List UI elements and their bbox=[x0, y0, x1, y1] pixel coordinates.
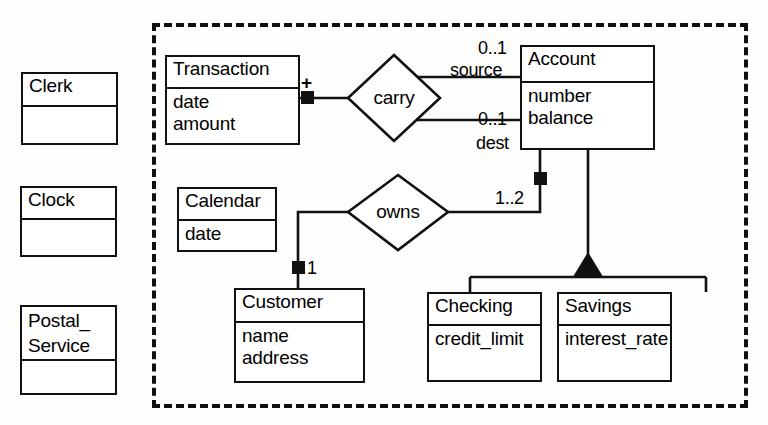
edge-label-source-role: source bbox=[450, 60, 502, 81]
class-attributes-clock bbox=[22, 220, 115, 224]
class-attributes-transaction: date amount bbox=[167, 89, 298, 137]
relationship-label-owns: owns bbox=[366, 201, 430, 223]
class-box-account[interactable]: Account number balance bbox=[520, 45, 655, 150]
edge-label-dest-multiplicity: 0..1 bbox=[478, 109, 507, 130]
class-box-transaction[interactable]: Transaction date amount bbox=[165, 55, 300, 145]
uml-class-diagram: carry owns 0..1 source 0..1 dest 1..2 1 … bbox=[0, 0, 768, 425]
class-box-postal-service[interactable]: Postal_ Service bbox=[20, 305, 117, 395]
edge-label-account-multiplicity: 1..2 bbox=[495, 188, 524, 209]
class-name-account: Account bbox=[522, 47, 653, 83]
class-name-customer: Customer bbox=[236, 290, 363, 323]
class-box-calendar[interactable]: Calendar date bbox=[177, 187, 277, 252]
class-name-clerk: Clerk bbox=[23, 74, 116, 107]
class-attributes-account: number balance bbox=[522, 83, 653, 131]
class-attributes-postal-service bbox=[22, 361, 115, 365]
class-attributes-clerk bbox=[23, 107, 116, 111]
class-attributes-savings: interest_rate bbox=[559, 326, 670, 352]
edge-label-dest-role: dest bbox=[476, 133, 509, 154]
class-attributes-customer: name address bbox=[236, 323, 363, 371]
class-attributes-checking: credit_limit bbox=[429, 326, 540, 352]
generalization-triangle-shape bbox=[574, 254, 602, 277]
class-box-customer[interactable]: Customer name address bbox=[234, 288, 365, 383]
relationship-label-carry: carry bbox=[362, 87, 426, 109]
edge-owns-customer bbox=[298, 212, 348, 288]
class-name-transaction: Transaction bbox=[167, 57, 298, 89]
class-attributes-calendar: date bbox=[179, 221, 275, 247]
aggregation-plus-icon: + bbox=[301, 73, 312, 92]
class-name-postal-service: Postal_ Service bbox=[22, 307, 115, 361]
class-box-clerk[interactable]: Clerk bbox=[21, 72, 118, 145]
edge-label-customer-multiplicity: 1 bbox=[307, 258, 317, 279]
class-name-checking: Checking bbox=[429, 294, 540, 326]
account-aggregation-square bbox=[534, 172, 547, 185]
class-name-clock: Clock bbox=[22, 188, 115, 220]
class-box-clock[interactable]: Clock bbox=[20, 186, 117, 257]
class-name-savings: Savings bbox=[559, 294, 670, 326]
edge-account-owns bbox=[448, 150, 540, 212]
class-box-savings[interactable]: Savings interest_rate bbox=[557, 292, 672, 382]
class-box-checking[interactable]: Checking credit_limit bbox=[427, 292, 542, 382]
edge-label-source-multiplicity: 0..1 bbox=[478, 38, 507, 59]
customer-aggregation-square bbox=[292, 261, 305, 274]
class-name-calendar: Calendar bbox=[179, 189, 275, 221]
